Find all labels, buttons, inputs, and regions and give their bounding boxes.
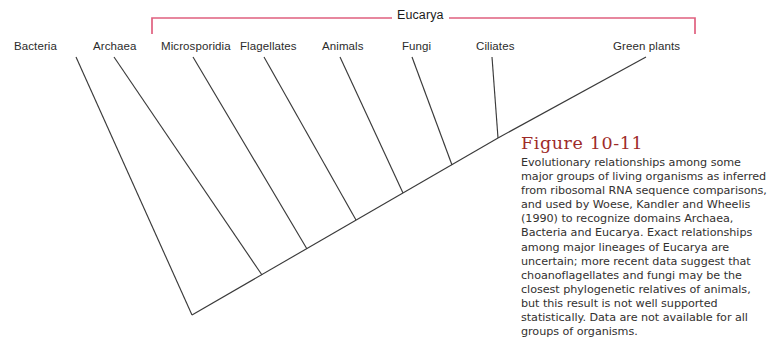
taxon-label-animals: Animals [322, 40, 364, 53]
branch-animals [340, 57, 403, 193]
branch-archaea [114, 57, 262, 275]
figure-container: Eucarya Bacteria Archaea Microsporidia F… [0, 0, 778, 338]
branch-bacteria [76, 57, 192, 315]
figure-caption-body: Evolutionary relationships among some ma… [521, 156, 771, 338]
figure-caption-title: Figure 10-11 [521, 133, 771, 153]
branch-microsporidia [193, 57, 307, 249]
branch-flagellates [264, 57, 356, 220]
taxon-label-bacteria: Bacteria [14, 40, 57, 53]
taxon-label-green-plants: Green plants [613, 40, 680, 53]
taxon-label-ciliates: Ciliates [476, 40, 515, 53]
branch-fungi [412, 57, 452, 165]
figure-caption: Figure 10-11 Evolutionary relationships … [521, 133, 771, 338]
branch-ciliates [492, 57, 498, 138]
taxon-label-microsporidia: Microsporidia [161, 40, 231, 53]
eucarya-group-label: Eucarya [392, 8, 449, 22]
taxon-label-archaea: Archaea [93, 40, 137, 53]
taxon-label-fungi: Fungi [402, 40, 431, 53]
taxon-label-flagellates: Flagellates [240, 40, 297, 53]
branch-green-plants [498, 57, 646, 138]
